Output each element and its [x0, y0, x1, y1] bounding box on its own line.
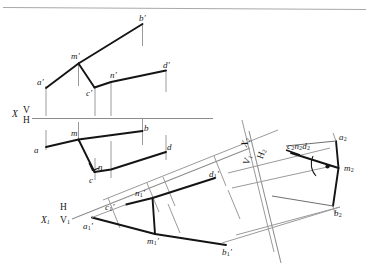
label-b-prime: b′ — [139, 14, 146, 23]
top-page-rule — [3, 8, 366, 10]
top-edge-m-c — [79, 140, 95, 173]
aux1-edge-a-m-b — [92, 218, 226, 246]
label-m1-prime: m1′ — [147, 237, 159, 246]
aux1-folding-line — [72, 148, 250, 219]
label-c2n2d2: c2n2d2 — [287, 142, 310, 151]
label-d1-prime: d1′ — [209, 170, 219, 179]
aux2-edge-collapsed-plane — [291, 153, 339, 168]
aux2-projector-lower — [236, 207, 340, 235]
aux1-edge-m-n — [153, 198, 156, 234]
label-n-top: n — [98, 163, 103, 172]
right-angle-arc — [311, 156, 316, 176]
aux1-axis-h: H — [60, 203, 67, 213]
label-c-prime: c′ — [86, 89, 92, 98]
label-d-top: d — [167, 143, 172, 152]
label-a1-prime: a1′ — [83, 222, 93, 231]
main-axis-vh-stack: V H — [23, 106, 30, 126]
label-b2: b2 — [334, 209, 342, 218]
aux1-axis-v1: V1 — [60, 216, 70, 226]
aux1-projector-b — [228, 190, 240, 219]
label-a-top: a — [34, 146, 39, 155]
label-a-prime: a′ — [37, 78, 44, 87]
label-c1-prime: c1′ — [105, 203, 114, 212]
aux2-frame-lower — [272, 196, 333, 206]
label-c-top: c — [89, 176, 93, 185]
main-axis-h: H — [23, 116, 30, 126]
right-angle-dot — [325, 164, 329, 168]
label-n-prime: n′ — [110, 71, 117, 80]
figure-canvas — [0, 0, 369, 280]
label-b-top: b — [144, 124, 149, 133]
aux2-edge-a-m-b — [333, 141, 339, 206]
label-a2: a2 — [339, 133, 347, 142]
aux2-projector-mid — [232, 166, 332, 188]
label-b1-prime: b1′ — [222, 248, 232, 257]
front-edge-m-c — [79, 64, 95, 88]
front-edge-c-n-d — [95, 71, 167, 88]
label-n1-prime: n1′ — [135, 189, 145, 198]
label-m-top: m — [71, 129, 78, 138]
aux1-axis-x-letter: X1 — [41, 216, 50, 226]
descriptive-geometry-figure: X V H a′ b′ c′ d′ m′ n′ a b c d m n X1 H… — [0, 0, 369, 280]
main-axis-x-letter: X — [12, 110, 18, 120]
label-m2: m2 — [344, 164, 354, 173]
aux2-projector-from-b1 — [222, 207, 340, 243]
aux1-projector-m — [168, 204, 180, 233]
top-edge-c-n-d — [95, 152, 167, 172]
top-edge-a-m-b — [46, 131, 143, 147]
label-d-prime: d′ — [163, 61, 170, 70]
tick-a2 — [333, 133, 336, 141]
label-m-prime: m′ — [71, 52, 80, 61]
